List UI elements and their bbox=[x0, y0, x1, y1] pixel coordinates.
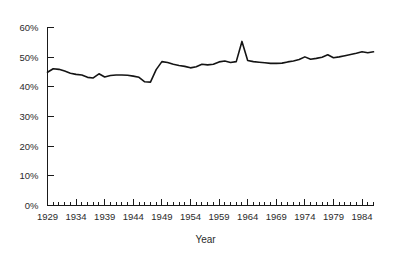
y-axis-tick-labels: 0%10%20%30%40%50%60% bbox=[19, 22, 39, 211]
x-tick-label: 1974 bbox=[294, 211, 315, 222]
y-tick-label: 60% bbox=[19, 22, 39, 33]
y-tick-label: 20% bbox=[19, 141, 39, 152]
y-tick-label: 30% bbox=[19, 111, 39, 122]
x-tick-label: 1929 bbox=[37, 211, 58, 222]
y-tick-label: 50% bbox=[19, 52, 39, 63]
x-axis-title: Year bbox=[195, 234, 216, 245]
x-axis-major-ticks bbox=[48, 199, 363, 206]
x-tick-label: 1984 bbox=[351, 211, 372, 222]
x-tick-label: 1934 bbox=[66, 211, 87, 222]
y-tick-label: 40% bbox=[19, 81, 39, 92]
x-tick-label: 1939 bbox=[94, 211, 115, 222]
data-series-line bbox=[48, 41, 374, 82]
x-tick-label: 1964 bbox=[237, 211, 258, 222]
x-tick-label: 1944 bbox=[123, 211, 144, 222]
y-tick-label: 10% bbox=[19, 170, 39, 181]
x-tick-label: 1954 bbox=[180, 211, 201, 222]
x-axis-tick-labels: 1929193419391944194919541959196419691974… bbox=[37, 211, 373, 222]
x-tick-label: 1969 bbox=[266, 211, 287, 222]
line-chart: 0%10%20%30%40%50%60% 1929193419391944194… bbox=[0, 0, 395, 260]
x-axis-minor-ticks bbox=[53, 202, 373, 206]
y-tick-label: 0% bbox=[25, 200, 39, 211]
chart-canvas: 0%10%20%30%40%50%60% 1929193419391944194… bbox=[0, 0, 395, 260]
x-tick-label: 1959 bbox=[209, 211, 230, 222]
x-tick-label: 1949 bbox=[151, 211, 172, 222]
x-tick-label: 1979 bbox=[323, 211, 344, 222]
y-axis-tick-marks bbox=[48, 28, 54, 206]
